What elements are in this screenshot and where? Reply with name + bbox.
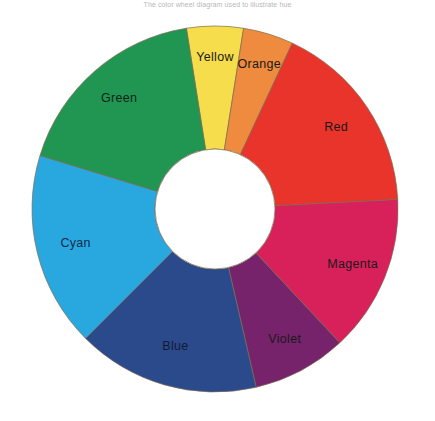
- color-wheel-container: YellowOrangeRedMagentaVioletBlueCyanGree…: [0, 14, 435, 414]
- color-wheel-svg: YellowOrangeRedMagentaVioletBlueCyanGree…: [0, 14, 435, 414]
- color-wheel-center-hole: [155, 149, 275, 269]
- figure-caption: The color wheel diagram used to illustra…: [0, 0, 435, 12]
